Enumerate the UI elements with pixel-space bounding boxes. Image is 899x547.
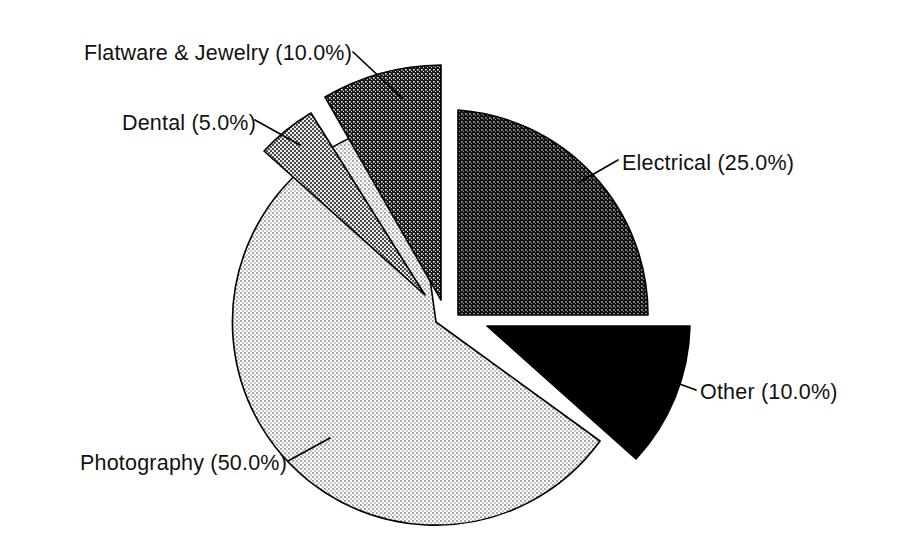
pie-chart-canvas: Flatware & Jewelry (10.0%) Dental (5.0%)… [0, 0, 899, 547]
pie-label-flatware-jewelry: Flatware & Jewelry (10.0%) [84, 41, 352, 65]
pie-label-photography: Photography (50.0%) [80, 451, 287, 475]
pie-label-electrical: Electrical (25.0%) [622, 151, 794, 175]
pie-label-other: Other (10.0%) [700, 380, 838, 404]
pie-label-dental: Dental (5.0%) [122, 111, 256, 135]
pie-chart-figure: Flatware & Jewelry (10.0%) Dental (5.0%)… [0, 0, 899, 547]
